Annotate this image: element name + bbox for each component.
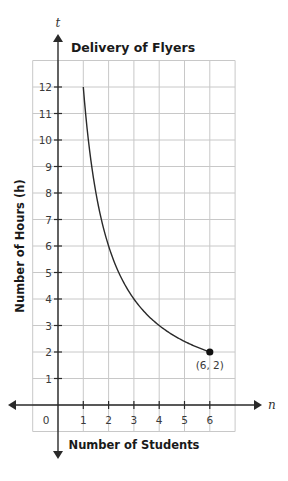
y-tick-label: 9	[45, 161, 52, 173]
y-tick-label: 3	[45, 320, 52, 332]
x-axis-label: Number of Students	[69, 438, 200, 452]
chart-title: Delivery of Flyers	[71, 40, 195, 55]
x-axis-right-arrow-icon	[254, 400, 262, 410]
point-label: (6, 2)	[196, 359, 224, 371]
chart-canvas: 123456123456789101112 (6, 2) Delivery of…	[0, 0, 288, 481]
y-tick-label: 6	[45, 240, 52, 252]
y-tick-label: 7	[45, 214, 52, 226]
y-variable-label: t	[56, 16, 61, 30]
x-tick-label: 5	[181, 414, 188, 426]
x-variable-label: n	[268, 398, 276, 412]
series: (6, 2)	[83, 87, 224, 371]
endpoint-dot	[206, 348, 213, 355]
x-axis-left-arrow-icon	[8, 400, 16, 410]
y-tick-label: 5	[45, 267, 52, 279]
x-tick-label: 6	[206, 414, 213, 426]
y-axis-down-arrow-icon	[53, 451, 63, 459]
y-tick-label: 1	[45, 373, 52, 385]
grid	[33, 61, 235, 432]
y-tick-label: 8	[45, 187, 52, 199]
y-tick-label: 11	[39, 108, 52, 120]
x-tick-label: 4	[156, 414, 163, 426]
y-axis-label: Number of Hours (h)	[13, 179, 27, 312]
y-tick-label: 12	[39, 81, 52, 93]
x-tick-label: 2	[105, 414, 112, 426]
origin-label: 0	[43, 414, 50, 426]
ticks: 123456123456789101112	[39, 81, 214, 426]
y-tick-label: 10	[39, 134, 52, 146]
y-tick-label: 2	[45, 346, 52, 358]
y-axis-up-arrow-icon	[53, 34, 63, 42]
x-tick-label: 3	[131, 414, 138, 426]
y-tick-label: 4	[45, 293, 52, 305]
x-tick-label: 1	[80, 414, 87, 426]
